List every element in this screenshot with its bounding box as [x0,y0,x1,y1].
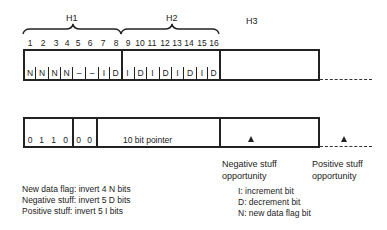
h3-label: H3 [246,16,258,26]
bit-number: 10 [134,38,146,48]
bit-number: 2 [37,38,49,48]
bit-cell: N [61,68,72,78]
positive-stuff-label: Positive stuff opportunity [312,158,363,182]
legend-i: I: increment bit [238,186,311,197]
note-negative-stuff: Negative stuff: invert 5 D bits [22,195,131,206]
notes-left: New data flag: invert 4 N bits Negative … [22,184,131,217]
bit-number: 1 [24,38,36,48]
bit-cell: I [197,68,207,78]
h1-label: H1 [66,13,78,23]
h2-label: H2 [166,13,178,23]
bit-number: 14 [183,38,195,48]
bit-cell: 0 [60,135,71,145]
legend-n: N: new data flag bit [238,208,311,219]
bit-cell: N [36,68,48,78]
bit-cell: 0 [25,135,35,145]
top-dashed-extension [320,79,372,80]
bit-cell: D [135,68,146,78]
bit-cell: 0 [73,135,84,145]
bit-cell: – [86,68,98,78]
bit-cell: D [160,68,171,78]
note-positive-stuff: Positive stuff: invert 5 I bits [22,206,131,217]
bit-number: 7 [97,38,109,48]
bit-cell: 1 [36,135,47,145]
bit-number: 6 [84,38,96,48]
bit-number: 11 [146,38,158,48]
bit-cell: D [110,68,121,78]
pointer-h3-divider [219,117,221,148]
bit-cell: I [172,68,183,78]
bit-cell: I [123,68,132,78]
bit-cell: D [184,68,196,78]
bit-number: 12 [159,38,171,48]
ss-pointer-divider [96,117,98,148]
bit-cell: – [73,68,85,78]
note-new-data-flag: New data flag: invert 4 N bits [22,184,131,195]
bit-cell: I [99,68,109,78]
bit-number: 13 [171,38,183,48]
bit-number: 9 [122,38,134,48]
bit-cell: N [25,68,35,78]
bit-number: 16 [208,38,220,48]
legend-d: D: decrement bit [238,197,311,208]
bit-number: 5 [72,38,84,48]
bit-number: 8 [110,38,122,48]
bit-cell: I [147,68,158,78]
bit-cell: 1 [48,135,59,145]
notes-right: I: increment bit D: decrement bit N: new… [238,186,311,219]
h2-h3-divider [219,49,221,81]
negative-stuff-label: Negative stuff opportunity [222,158,277,182]
pointer-label: 10 bit pointer [123,135,172,145]
bit-cell: D [208,68,219,78]
bottom-dashed-extension [320,146,372,147]
bit-cell: 0 [84,135,95,145]
bit-cell: N [49,68,60,78]
bit-number: 15 [196,38,208,48]
